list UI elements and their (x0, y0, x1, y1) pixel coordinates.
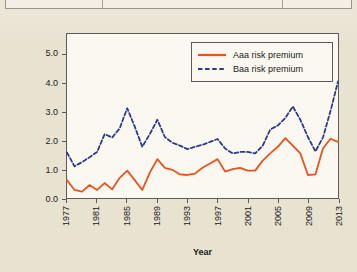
x-axis-tick-label: 1993 (182, 206, 192, 226)
x-axis-tick-label: 1981 (91, 206, 101, 226)
y-axis-tick-label: 3.0 (45, 107, 58, 117)
legend-item-aaa: Aaa risk premium (198, 48, 326, 62)
x-axis-tick: 1997 (213, 199, 223, 226)
x-axis-tick-label: 2013 (334, 206, 344, 226)
legend-swatch-aaa-solid-line (198, 50, 226, 60)
x-axis-tick-label: 2005 (273, 206, 283, 226)
screenshot-root: Default Premium (%) 0.01.02.03.04.05.0 A… (0, 0, 357, 272)
legend-label-baa: Baa risk premium (233, 64, 303, 74)
x-axis-ticks: 1977198119851989199319972001200520092013 (66, 199, 339, 245)
y-axis-tick-label: 4.0 (45, 78, 58, 88)
x-axis-tick-mark (126, 199, 127, 203)
x-axis-tick: 1993 (182, 199, 192, 226)
chart-legend: Aaa risk premium Baa risk premium (191, 42, 333, 82)
y-axis-ticks: 0.01.02.03.04.05.0 (0, 33, 66, 199)
y-axis-tick: 4.0 (45, 78, 66, 88)
chart-figure: Default Premium (%) 0.01.02.03.04.05.0 A… (0, 9, 357, 272)
x-axis-tick: 1985 (122, 199, 132, 226)
x-axis-tick-label: 2009 (304, 206, 314, 226)
x-axis-tick: 2013 (334, 199, 344, 226)
x-axis-tick: 2005 (273, 199, 283, 226)
x-axis-tick-mark (278, 199, 279, 203)
y-axis-tick: 3.0 (45, 107, 66, 117)
x-axis-tick: 1977 (61, 199, 71, 226)
x-axis-tick-label: 1977 (61, 206, 71, 226)
x-axis-tick-mark (217, 199, 218, 203)
y-axis-tick-label: 0.0 (45, 194, 58, 204)
x-axis-title: Year (66, 247, 339, 257)
top-frame-fragment (5, 0, 352, 9)
x-axis-tick-label: 1989 (152, 206, 162, 226)
y-axis-tick-label: 1.0 (45, 165, 58, 175)
x-axis-tick-mark (96, 199, 97, 203)
legend-label-aaa: Aaa risk premium (233, 50, 303, 60)
y-axis-tick: 1.0 (45, 165, 66, 175)
x-axis-tick-mark (339, 199, 340, 203)
x-axis-tick-mark (248, 199, 249, 203)
plot-area: Aaa risk premium Baa risk premium (66, 33, 339, 199)
series-line-aaa (67, 138, 338, 192)
y-axis-tick: 2.0 (45, 136, 66, 146)
x-axis-tick: 1981 (91, 199, 101, 226)
series-line-baa (67, 81, 338, 166)
legend-swatch-baa-dashed-line (198, 64, 226, 74)
x-axis-tick-mark (308, 199, 309, 203)
y-axis-tick-label: 2.0 (45, 136, 58, 146)
x-axis-tick-label: 1997 (213, 206, 223, 226)
y-axis-tick: 5.0 (45, 48, 66, 58)
x-axis-tick: 2001 (243, 199, 253, 226)
x-axis-tick-label: 1985 (122, 206, 132, 226)
x-axis-tick-mark (157, 199, 158, 203)
x-axis-tick-mark (187, 199, 188, 203)
x-axis-tick: 2009 (304, 199, 314, 226)
y-axis-tick-label: 5.0 (45, 48, 58, 58)
x-axis-tick-mark (66, 199, 67, 203)
legend-item-baa: Baa risk premium (198, 62, 326, 76)
x-axis-tick-label: 2001 (243, 206, 253, 226)
x-axis-tick: 1989 (152, 199, 162, 226)
